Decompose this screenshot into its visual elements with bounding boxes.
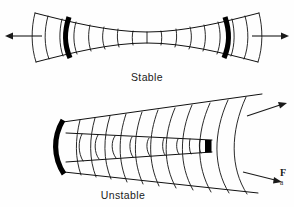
caption-line-2: a <box>280 178 284 187</box>
unstable-primary-mirror <box>56 120 64 174</box>
wavefront <box>234 97 247 194</box>
wavefront <box>120 114 127 182</box>
unstable-envelope-lower <box>64 172 258 193</box>
figure-canvas: Stable <box>0 0 294 207</box>
wavefront <box>103 27 105 49</box>
stable-label: Stable <box>131 71 163 83</box>
unstable-inner-envelope <box>66 133 212 162</box>
wavefront <box>95 135 99 159</box>
wavefront <box>112 136 116 158</box>
unstable-secondary-mirror <box>205 140 212 153</box>
wavefront <box>32 13 36 62</box>
unstable-output-arrow-upper <box>247 102 287 116</box>
wavefront <box>60 19 63 56</box>
wavefront <box>76 120 81 175</box>
inner-envelope-lower <box>66 152 212 162</box>
wavefront <box>74 22 77 54</box>
arrow-shaft <box>243 172 275 180</box>
arrow-head <box>281 33 289 40</box>
wavefront <box>89 25 91 51</box>
caption-line-1: F <box>280 167 286 178</box>
wavefront <box>130 137 133 157</box>
wavefront <box>132 31 133 45</box>
laser-resonator-figure: Stable <box>0 0 294 207</box>
unstable-outer-wavefronts <box>76 97 247 194</box>
arrow-head <box>5 33 13 40</box>
wavefront <box>258 13 262 62</box>
caption-fragment: F a <box>280 167 286 187</box>
wavefront <box>105 116 111 179</box>
wavefront <box>79 134 83 161</box>
wavefront <box>189 27 191 49</box>
unstable-envelope-upper <box>63 94 262 122</box>
wavefront <box>147 138 150 156</box>
arrow-shaft <box>247 105 280 116</box>
arrow-head <box>278 102 287 109</box>
stable-left-mirror <box>65 17 70 58</box>
wavefront <box>151 110 159 186</box>
unstable-label: Unstable <box>101 189 146 201</box>
wavefront <box>203 25 205 51</box>
wavefront <box>45 16 49 59</box>
stable-output-arrow-right <box>252 33 289 40</box>
wavefront <box>161 31 162 45</box>
wavefront <box>217 100 229 193</box>
wavefront <box>163 138 165 155</box>
wavefront <box>231 19 234 56</box>
wavefront <box>166 108 176 188</box>
unstable-output-arrow-lower <box>243 172 282 184</box>
wavefront <box>177 139 179 154</box>
wavefront <box>135 112 143 184</box>
stable-output-arrow-left <box>5 33 42 40</box>
wavefront <box>182 105 193 190</box>
wavefront <box>217 22 220 54</box>
wavefront <box>189 139 191 154</box>
wavefront <box>244 16 248 59</box>
unstable-resonator-diagram: Unstable <box>56 94 287 201</box>
stable-right-mirror <box>224 17 229 58</box>
stable-resonator-diagram: Stable <box>5 13 289 83</box>
